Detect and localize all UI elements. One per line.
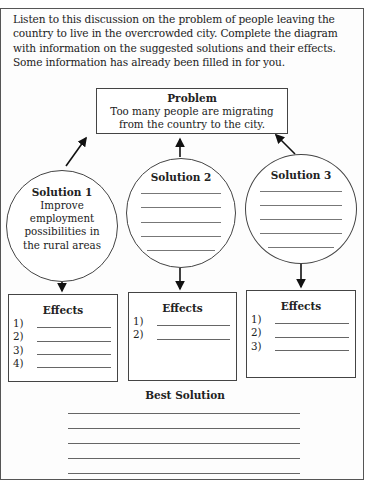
effects-2-title: Effects — [129, 302, 236, 315]
blank-line[interactable] — [275, 323, 349, 324]
effects-box-1: Effects 1) 2) 3) 4) — [8, 294, 118, 382]
blank-line[interactable] — [275, 337, 349, 338]
effects-2-item[interactable]: 2) — [129, 328, 236, 341]
solution-2-blank-line[interactable] — [141, 193, 221, 194]
item-number: 3) — [13, 344, 24, 356]
effects-1-item[interactable]: 2) — [9, 330, 117, 343]
effects-3-item[interactable]: 1) — [247, 313, 355, 326]
item-number: 1) — [133, 315, 144, 327]
item-number: 1) — [251, 313, 262, 325]
effects-2-item[interactable]: 1) — [129, 315, 236, 328]
blank-line[interactable] — [37, 341, 111, 342]
item-number: 2) — [13, 330, 24, 342]
solution-3-blank-line[interactable] — [268, 247, 334, 248]
item-number: 1) — [13, 317, 24, 329]
best-solution-blank-line[interactable] — [68, 473, 300, 474]
best-solution-title: Best Solution — [0, 389, 370, 401]
instructions-text: Listen to this discussion on the problem… — [13, 12, 358, 70]
solution-1-text: Improve employment possibilities in the … — [7, 199, 117, 252]
effects-1-item[interactable]: 1) — [9, 317, 117, 330]
effects-3-title: Effects — [247, 300, 355, 313]
best-solution-blank-line[interactable] — [68, 413, 300, 414]
solution-2-circle: Solution 2 — [126, 158, 236, 268]
solution-2-blank-line[interactable] — [141, 207, 221, 208]
blank-line[interactable] — [37, 367, 111, 368]
blank-line[interactable] — [37, 327, 111, 328]
effects-1-item[interactable]: 3) — [9, 344, 117, 357]
effects-1-title: Effects — [9, 304, 117, 317]
solution-3-blank-line[interactable] — [260, 219, 342, 220]
problem-box: Problem Too many people are migrating fr… — [96, 88, 288, 134]
blank-line[interactable] — [37, 354, 111, 355]
effects-3-item[interactable]: 3) — [247, 340, 355, 353]
solution-1-title: Solution 1 — [7, 186, 117, 199]
blank-line[interactable] — [157, 325, 230, 326]
solution-2-blank-line[interactable] — [141, 222, 221, 223]
blank-line[interactable] — [275, 350, 349, 351]
solution-3-blank-line[interactable] — [260, 233, 342, 234]
problem-text: Too many people are migrating from the c… — [97, 105, 287, 131]
solution-3-circle: Solution 3 — [245, 154, 357, 264]
solution-3-blank-line[interactable] — [260, 205, 342, 206]
item-number: 2) — [133, 328, 144, 340]
solution-1-circle: Solution 1 Improve employment possibilit… — [6, 170, 118, 282]
blank-line[interactable] — [157, 339, 230, 340]
problem-title: Problem — [97, 92, 287, 105]
solution-2-title: Solution 2 — [127, 171, 235, 184]
best-solution-blank-line[interactable] — [68, 458, 300, 459]
effects-box-3: Effects 1) 2) 3) — [246, 290, 356, 378]
item-number: 4) — [13, 357, 24, 369]
effects-1-item[interactable]: 4) — [9, 357, 117, 370]
solution-2-blank-line[interactable] — [141, 236, 221, 237]
best-solution-blank-line[interactable] — [68, 443, 300, 444]
item-number: 3) — [251, 340, 262, 352]
effects-3-item[interactable]: 2) — [247, 326, 355, 339]
solution-2-blank-line[interactable] — [147, 250, 215, 251]
solution-3-title: Solution 3 — [246, 169, 356, 182]
solution-3-blank-line[interactable] — [260, 191, 342, 192]
item-number: 2) — [251, 326, 262, 338]
best-solution-blank-line[interactable] — [68, 428, 300, 429]
effects-box-2: Effects 1) 2) — [128, 292, 237, 381]
